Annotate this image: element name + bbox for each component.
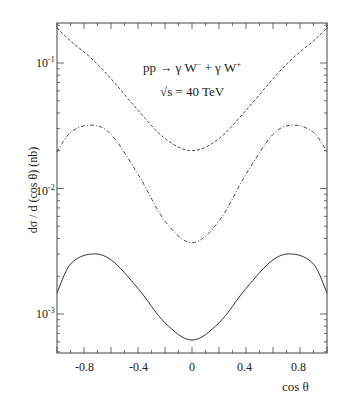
process-text: pp → γ W — [143, 60, 197, 75]
x-axis-label: cos θ — [282, 379, 309, 395]
y-tick-exp: -3 — [48, 306, 55, 315]
series-line-dashdot — [57, 125, 327, 243]
y-tick-label-1e-1: 10-1 — [36, 55, 55, 71]
process-label: pp → γ W− + γ W+ — [143, 60, 241, 76]
x-tick-label: -0.4 — [129, 360, 148, 375]
x-tick-label: -0.8 — [75, 360, 94, 375]
x-tick-label: 0 — [189, 360, 195, 375]
process-sup-plus: + — [236, 60, 241, 69]
series-line-solid — [57, 254, 327, 340]
process-text-mid: + γ W — [201, 60, 236, 75]
y-axis-label: dσ / d (cos θ) (nb) — [26, 147, 41, 234]
x-tick-label: 0.4 — [237, 360, 252, 375]
x-tick-label: 0.8 — [291, 360, 306, 375]
y-tick-exp: -2 — [48, 183, 55, 192]
y-tick-base: 10 — [36, 307, 48, 321]
y-tick-exp: -1 — [48, 55, 55, 64]
y-tick-label-1e-3: 10-3 — [36, 306, 55, 322]
energy-label: √s = 40 TeV — [160, 84, 224, 100]
y-tick-base: 10 — [36, 56, 48, 70]
